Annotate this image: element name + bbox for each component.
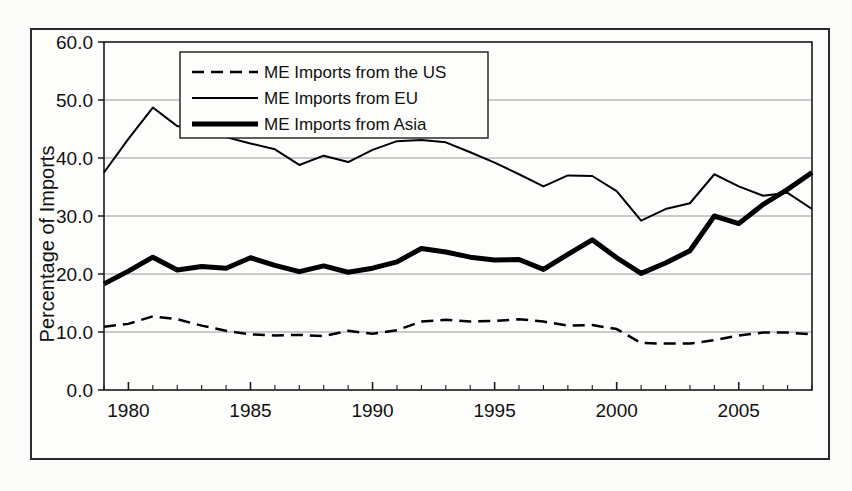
y-tick-label: 10.0: [56, 322, 93, 343]
y-axis-title: Percentage of Imports: [36, 146, 58, 343]
x-tick-label: 1980: [107, 400, 149, 421]
figure-canvas: 198019851990199520002005 0.010.020.030.0…: [0, 0, 852, 491]
y-tick-label: 20.0: [56, 264, 93, 285]
x-tick-label: 2005: [718, 400, 760, 421]
line-chart: 198019851990199520002005 0.010.020.030.0…: [32, 30, 828, 458]
x-tick-label: 1990: [351, 400, 393, 421]
y-tick-label: 40.0: [56, 148, 93, 169]
x-tick-label: 1985: [229, 400, 271, 421]
y-tick-label: 30.0: [56, 206, 93, 227]
y-tick-label: 0.0: [67, 380, 93, 401]
x-tick-label: 1995: [473, 400, 515, 421]
chart-outer-frame: 198019851990199520002005 0.010.020.030.0…: [30, 28, 830, 460]
chart-legend: ME Imports from the USME Imports from EU…: [180, 52, 488, 138]
legend-label: ME Imports from Asia: [264, 115, 427, 134]
legend-label: ME Imports from the US: [264, 63, 446, 82]
x-tick-label: 2000: [596, 400, 638, 421]
y-tick-label: 50.0: [56, 90, 93, 111]
legend-label: ME Imports from EU: [264, 89, 418, 108]
y-tick-label: 60.0: [56, 32, 93, 53]
